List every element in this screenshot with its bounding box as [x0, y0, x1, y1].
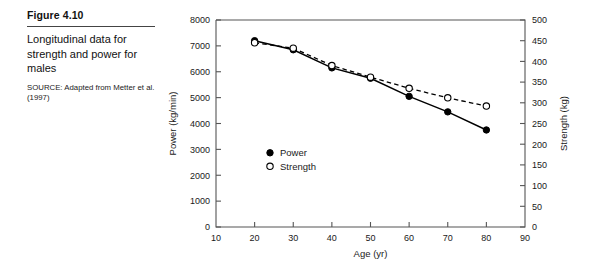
y2-axis-title: Strength (kg): [558, 96, 569, 151]
x-axis-tick-label: 20: [250, 233, 260, 243]
data-point-strength: [290, 45, 296, 51]
x-axis-tick-label: 10: [211, 233, 221, 243]
x-axis-tick-label: 30: [288, 233, 298, 243]
y2-axis-tick-label: 500: [532, 15, 547, 25]
x-axis-tick-label: 70: [443, 233, 453, 243]
plot-frame: [216, 20, 525, 227]
figure-container: Figure 4.10 Longitudinal data for streng…: [0, 0, 602, 268]
y2-axis-tick-label: 100: [532, 181, 547, 191]
y2-axis-tick-label: 250: [532, 119, 547, 129]
data-point-strength: [367, 74, 373, 80]
x-axis-tick-label: 80: [481, 233, 491, 243]
x-axis-tick-label: 60: [404, 233, 414, 243]
chart-series-group: [251, 38, 489, 134]
y-axis-tick-label: 2000: [190, 171, 210, 181]
y2-axis-tick-label: 400: [532, 57, 547, 67]
y2-axis-tick-label: 450: [532, 36, 547, 46]
y-axis-tick-label: 4000: [190, 119, 210, 129]
y2-axis-tick-label: 350: [532, 77, 547, 87]
legend-marker-power: [267, 150, 273, 156]
chart-svg: 0100020003000400050006000700080000501001…: [0, 0, 602, 268]
series-line-power: [255, 41, 487, 130]
x-axis-tick-label: 40: [327, 233, 337, 243]
y-axis-title: Power (kg/min): [167, 92, 178, 156]
legend-label-strength: Strength: [280, 161, 316, 172]
data-point-power: [406, 93, 412, 99]
chart-area: 0100020003000400050006000700080000501001…: [0, 0, 602, 268]
data-point-strength: [329, 62, 335, 68]
chart-legend: PowerStrength: [267, 147, 316, 172]
x-axis-title: Age (yr): [354, 248, 388, 259]
chart-axes: 0100020003000400050006000700080000501001…: [167, 15, 569, 259]
data-point-power: [483, 127, 489, 133]
x-axis-tick-label: 50: [365, 233, 375, 243]
y-axis-tick-label: 3000: [190, 145, 210, 155]
y-axis-tick-label: 0: [205, 222, 210, 232]
data-point-strength: [445, 95, 451, 101]
legend-marker-strength: [267, 163, 273, 169]
data-point-strength: [483, 103, 489, 109]
legend-label-power: Power: [280, 147, 307, 158]
y-axis-tick-label: 1000: [190, 196, 210, 206]
y-axis-tick-label: 7000: [190, 41, 210, 51]
y2-axis-tick-label: 150: [532, 160, 547, 170]
y-axis-tick-label: 8000: [190, 15, 210, 25]
data-point-strength: [251, 40, 257, 46]
data-point-strength: [406, 85, 412, 91]
x-axis-tick-label: 90: [520, 233, 530, 243]
y2-axis-tick-label: 300: [532, 98, 547, 108]
y2-axis-tick-label: 200: [532, 140, 547, 150]
data-point-power: [445, 109, 451, 115]
y2-axis-tick-label: 50: [532, 202, 542, 212]
y2-axis-tick-label: 0: [532, 222, 537, 232]
y-axis-tick-label: 6000: [190, 67, 210, 77]
y-axis-tick-label: 5000: [190, 93, 210, 103]
